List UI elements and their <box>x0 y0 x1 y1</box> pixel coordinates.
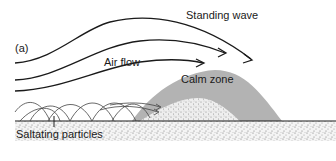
saltation-diagram: (a) Standing wave Air flow Calm zone Sal… <box>0 0 336 161</box>
calm-zone-label: Calm zone <box>181 74 234 85</box>
standing-wave-label: Standing wave <box>186 10 258 21</box>
panel-label: (a) <box>15 43 28 54</box>
saltating-particles-label: Saltating particles <box>16 129 103 140</box>
air-flow-label: Air flow <box>104 57 140 68</box>
